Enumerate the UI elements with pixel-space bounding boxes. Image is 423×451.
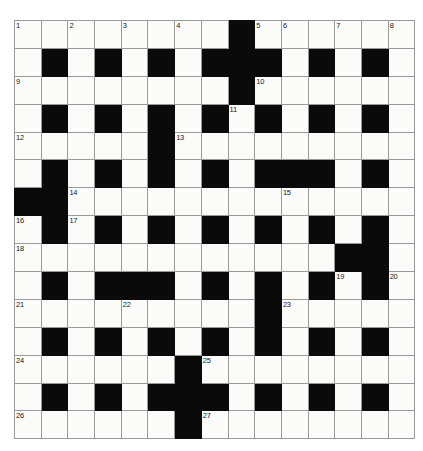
crossword-cell[interactable] <box>308 76 335 104</box>
crossword-cell[interactable] <box>15 104 42 132</box>
crossword-cell[interactable] <box>121 48 148 76</box>
crossword-cell[interactable] <box>41 355 68 383</box>
crossword-cell[interactable] <box>68 383 95 411</box>
crossword-cell[interactable]: 27 <box>201 411 228 439</box>
crossword-cell[interactable] <box>68 272 95 300</box>
crossword-cell[interactable] <box>15 48 42 76</box>
crossword-cell[interactable] <box>121 327 148 355</box>
crossword-cell[interactable] <box>95 299 122 327</box>
crossword-cell[interactable] <box>361 355 388 383</box>
crossword-cell[interactable] <box>335 76 362 104</box>
crossword-cell[interactable] <box>121 188 148 216</box>
crossword-cell[interactable] <box>201 21 228 49</box>
crossword-cell[interactable] <box>361 411 388 439</box>
crossword-cell[interactable] <box>255 188 282 216</box>
crossword-cell[interactable] <box>281 48 308 76</box>
crossword-cell[interactable]: 21 <box>15 299 42 327</box>
crossword-cell[interactable] <box>281 104 308 132</box>
crossword-cell[interactable] <box>255 355 282 383</box>
crossword-cell[interactable] <box>281 244 308 272</box>
crossword-cell[interactable]: 15 <box>281 188 308 216</box>
crossword-cell[interactable] <box>388 76 415 104</box>
crossword-cell[interactable] <box>95 188 122 216</box>
crossword-cell[interactable] <box>361 188 388 216</box>
crossword-cell[interactable] <box>388 48 415 76</box>
crossword-cell[interactable] <box>68 244 95 272</box>
crossword-cell[interactable]: 14 <box>68 188 95 216</box>
crossword-cell[interactable] <box>148 355 175 383</box>
crossword-cell[interactable] <box>201 132 228 160</box>
crossword-cell[interactable] <box>228 132 255 160</box>
crossword-cell[interactable] <box>335 104 362 132</box>
crossword-cell[interactable]: 8 <box>388 21 415 49</box>
crossword-cell[interactable] <box>15 272 42 300</box>
crossword-cell[interactable]: 11 <box>228 104 255 132</box>
crossword-cell[interactable] <box>308 355 335 383</box>
crossword-cell[interactable] <box>228 216 255 244</box>
crossword-cell[interactable]: 17 <box>68 216 95 244</box>
crossword-cell[interactable] <box>68 327 95 355</box>
crossword-cell[interactable] <box>281 383 308 411</box>
crossword-cell[interactable] <box>41 132 68 160</box>
crossword-cell[interactable]: 12 <box>15 132 42 160</box>
crossword-cell[interactable] <box>121 355 148 383</box>
crossword-cell[interactable] <box>201 244 228 272</box>
crossword-cell[interactable] <box>388 383 415 411</box>
crossword-cell[interactable] <box>41 244 68 272</box>
crossword-cell[interactable] <box>388 216 415 244</box>
crossword-cell[interactable] <box>148 76 175 104</box>
crossword-cell[interactable] <box>281 132 308 160</box>
crossword-cell[interactable] <box>121 244 148 272</box>
crossword-cell[interactable] <box>95 76 122 104</box>
crossword-cell[interactable] <box>95 411 122 439</box>
crossword-cell[interactable] <box>335 48 362 76</box>
crossword-cell[interactable] <box>281 355 308 383</box>
crossword-cell[interactable] <box>281 216 308 244</box>
crossword-cell[interactable] <box>388 244 415 272</box>
crossword-cell[interactable] <box>148 21 175 49</box>
crossword-cell[interactable] <box>201 188 228 216</box>
crossword-cell[interactable] <box>95 132 122 160</box>
crossword-cell[interactable] <box>388 355 415 383</box>
crossword-cell[interactable] <box>388 327 415 355</box>
crossword-cell[interactable] <box>121 104 148 132</box>
crossword-cell[interactable]: 24 <box>15 355 42 383</box>
crossword-cell[interactable]: 22 <box>121 299 148 327</box>
crossword-cell[interactable] <box>201 76 228 104</box>
crossword-cell[interactable] <box>68 48 95 76</box>
crossword-cell[interactable] <box>308 299 335 327</box>
crossword-cell[interactable] <box>175 160 202 188</box>
crossword-cell[interactable] <box>175 244 202 272</box>
crossword-cell[interactable]: 3 <box>121 21 148 49</box>
crossword-cell[interactable] <box>255 411 282 439</box>
crossword-cell[interactable] <box>15 160 42 188</box>
crossword-cell[interactable] <box>228 299 255 327</box>
crossword-cell[interactable]: 20 <box>388 272 415 300</box>
crossword-cell[interactable] <box>361 76 388 104</box>
crossword-cell[interactable] <box>15 327 42 355</box>
crossword-cell[interactable] <box>41 411 68 439</box>
crossword-cell[interactable] <box>228 160 255 188</box>
crossword-cell[interactable] <box>175 188 202 216</box>
crossword-cell[interactable] <box>68 160 95 188</box>
crossword-cell[interactable]: 13 <box>175 132 202 160</box>
crossword-cell[interactable] <box>121 383 148 411</box>
crossword-cell[interactable] <box>335 411 362 439</box>
crossword-cell[interactable] <box>68 76 95 104</box>
crossword-cell[interactable]: 5 <box>255 21 282 49</box>
crossword-cell[interactable]: 10 <box>255 76 282 104</box>
crossword-cell[interactable] <box>335 383 362 411</box>
crossword-cell[interactable]: 25 <box>201 355 228 383</box>
crossword-cell[interactable] <box>15 383 42 411</box>
crossword-cell[interactable] <box>308 244 335 272</box>
crossword-cell[interactable] <box>95 355 122 383</box>
crossword-cell[interactable] <box>255 132 282 160</box>
crossword-cell[interactable] <box>281 272 308 300</box>
crossword-cell[interactable] <box>175 299 202 327</box>
crossword-cell[interactable] <box>41 299 68 327</box>
crossword-cell[interactable] <box>335 355 362 383</box>
crossword-cell[interactable] <box>281 327 308 355</box>
crossword-cell[interactable] <box>335 132 362 160</box>
crossword-cell[interactable] <box>308 21 335 49</box>
crossword-cell[interactable]: 23 <box>281 299 308 327</box>
